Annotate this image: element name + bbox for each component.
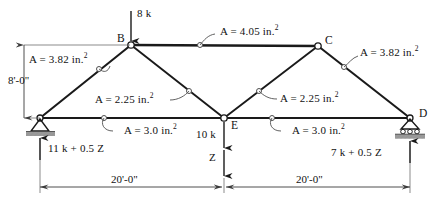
- leader-be: [170, 91, 189, 100]
- area-label-cd: A = 3.82 in.2: [360, 47, 419, 58]
- area-label-ae: A = 3.0 in.2: [124, 125, 177, 136]
- member-be-line: [131, 45, 224, 118]
- joint-label-c: C: [325, 35, 333, 47]
- dimension-label-span-right: 20'-0": [296, 173, 323, 185]
- area-label-ab-text: A = 3.82 in.: [29, 53, 84, 65]
- area-label-ce-text: A = 2.25 in.: [280, 92, 335, 104]
- area-label-be-text: A = 2.25 in.: [95, 93, 150, 105]
- dimension-label-height: 8'-0": [8, 74, 29, 86]
- area-label-ed-text: A = 3.0 in.: [292, 124, 341, 136]
- member-bc-line: [131, 45, 318, 46]
- truss-joints: [37, 42, 413, 121]
- member-ce-line: [224, 46, 318, 118]
- area-label-ed: A = 3.0 in.2: [292, 125, 345, 136]
- leader-cd: [344, 56, 358, 67]
- truss-members: [40, 45, 410, 118]
- area-label-ab: A = 3.82 in.2: [29, 54, 88, 65]
- area-label-bc-text: A = 4.05 in.: [220, 25, 275, 37]
- joint-c-marker: [315, 43, 321, 49]
- area-label-bc: A = 4.05 in.2: [220, 26, 279, 37]
- area-label-ed-exp: 2: [341, 122, 345, 131]
- dimension-label-span-left: 20'-0": [111, 173, 138, 185]
- joint-label-e: E: [231, 120, 238, 132]
- reaction-label-left: 11 k + 0.5 Z: [48, 143, 104, 154]
- truss-diagram-figure: B C D E A = 3.82 in.2 A = 4.05 in.2 A = …: [0, 0, 439, 204]
- reaction-label-right: 7 k + 0.5 Z: [331, 147, 382, 158]
- area-label-bc-exp: 2: [275, 23, 279, 32]
- area-label-be: A = 2.25 in.2: [95, 94, 154, 105]
- area-label-ab-exp: 2: [84, 51, 88, 60]
- area-label-cd-exp: 2: [415, 44, 419, 53]
- joint-e-marker: [221, 115, 227, 121]
- load-label-e: 10 k: [196, 129, 216, 140]
- load-label-b: 8 k: [137, 8, 151, 19]
- area-label-ae-text: A = 3.0 in.: [124, 124, 173, 136]
- area-label-be-exp: 2: [150, 91, 154, 100]
- support-roller-d: [395, 119, 425, 139]
- joint-label-b: B: [117, 33, 125, 45]
- area-label-cd-text: A = 3.82 in.: [360, 46, 415, 58]
- joint-label-d: D: [419, 108, 428, 120]
- area-label-ce-exp: 2: [335, 90, 339, 99]
- area-label-ae-exp: 2: [173, 122, 177, 131]
- load-label-z: Z: [209, 152, 216, 163]
- area-label-ce: A = 2.25 in.2: [280, 93, 339, 104]
- member-leader-anchors: [97, 43, 347, 121]
